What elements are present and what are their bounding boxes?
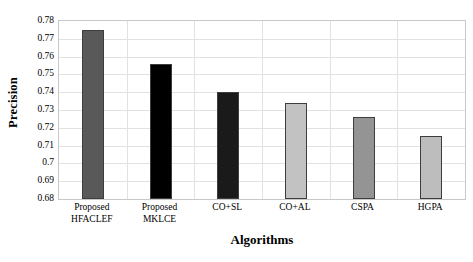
gridline-vertical bbox=[262, 21, 263, 199]
y-axis-tick-labels: 0.680.690.70.710.720.730.740.750.760.770… bbox=[24, 20, 57, 200]
gridline-vertical bbox=[330, 21, 331, 199]
x-axis-title: Algorithms bbox=[58, 232, 466, 248]
y-axis-tick-label: 0.75 bbox=[37, 68, 54, 78]
x-axis-tick-labels: Proposed HFACLEFProposed MKLCECO+SLCO+AL… bbox=[58, 202, 466, 234]
y-axis-tick-label: 0.78 bbox=[37, 15, 54, 25]
y-axis-tick-label: 0.74 bbox=[37, 86, 54, 96]
y-axis-tick-label: 0.73 bbox=[37, 104, 54, 114]
precision-bar-chart: Precision 0.680.690.70.710.720.730.740.7… bbox=[0, 0, 473, 262]
gridline-vertical bbox=[127, 21, 128, 199]
bar bbox=[217, 92, 239, 199]
y-axis-title-label: Precision bbox=[6, 77, 21, 128]
plot-area bbox=[58, 20, 466, 200]
x-axis-tick-label: CO+AL bbox=[279, 202, 310, 214]
bar bbox=[285, 103, 307, 199]
y-axis-tick-label: 0.7 bbox=[42, 157, 54, 167]
bar bbox=[82, 30, 104, 199]
y-axis-tick-label: 0.76 bbox=[37, 51, 54, 61]
x-axis-tick-label: HGPA bbox=[418, 202, 443, 214]
x-axis-tick-label: CSPA bbox=[351, 202, 374, 214]
x-axis-tick-label: Proposed MKLCE bbox=[142, 202, 177, 225]
gridline-vertical bbox=[397, 21, 398, 199]
x-axis-tick-label: CO+SL bbox=[212, 202, 242, 214]
y-axis-tick-label: 0.77 bbox=[37, 33, 54, 43]
y-axis-tick-label: 0.68 bbox=[37, 193, 54, 203]
bar bbox=[420, 136, 442, 199]
bar bbox=[353, 117, 375, 199]
gridline-vertical bbox=[194, 21, 195, 199]
y-axis-title: Precision bbox=[2, 0, 24, 205]
x-axis-tick-label: Proposed HFACLEF bbox=[71, 202, 113, 225]
y-axis-tick-label: 0.71 bbox=[37, 140, 54, 150]
y-axis-tick-label: 0.72 bbox=[37, 122, 54, 132]
y-axis-tick-label: 0.69 bbox=[37, 175, 54, 185]
bar bbox=[150, 64, 172, 199]
